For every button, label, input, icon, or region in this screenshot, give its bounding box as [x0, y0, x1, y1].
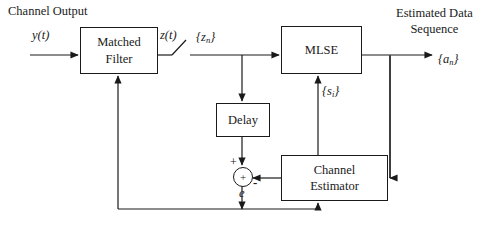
block-channel-estimator-line1: Channel [314, 162, 356, 179]
label-estimated-line1: Estimated Data [396, 6, 473, 22]
label-channel-estimate-si: {si} [322, 84, 339, 99]
block-mlse-line1: MLSE [305, 42, 338, 59]
label-sum-plus-input: + [230, 155, 237, 170]
label-error-signal: e [239, 186, 245, 201]
label-output-symbols-an: {an} [438, 52, 459, 67]
label-zn-subscript: n [206, 35, 210, 45]
block-mlse[interactable]: MLSE [281, 26, 362, 74]
summing-junction[interactable]: + [233, 167, 253, 187]
block-delay[interactable]: Delay [216, 103, 270, 137]
label-si-open: {s [322, 84, 332, 98]
label-filter-output-zt: z(t) [160, 28, 177, 43]
block-diagram-canvas: Matched Filter MLSE Delay Channel Estima… [0, 0, 492, 227]
label-an-open: {a [438, 52, 449, 66]
label-an-close: } [454, 52, 459, 66]
label-sampled-sequence-zn: {zn} [196, 30, 215, 45]
block-matched-filter-line1: Matched [97, 34, 141, 51]
summing-junction-operator: + [240, 172, 246, 183]
block-delay-line1: Delay [228, 112, 258, 129]
label-channel-output: Channel Output [8, 4, 88, 19]
label-input-signal-yt: y(t) [32, 28, 49, 43]
label-si-subscript: i [332, 89, 334, 99]
label-an-subscript: n [449, 57, 453, 67]
label-si-close: } [334, 84, 339, 98]
block-channel-estimator-line2: Estimator [310, 178, 359, 195]
block-channel-estimator[interactable]: Channel Estimator [281, 155, 388, 201]
label-zn-open: {z [196, 30, 206, 44]
label-sum-minus-input: - [253, 175, 257, 191]
label-zn-close: } [210, 30, 215, 44]
block-matched-filter[interactable]: Matched Filter [80, 27, 158, 74]
label-estimated-line2: Sequence [396, 22, 473, 38]
block-matched-filter-line2: Filter [105, 51, 132, 68]
label-estimated-data-sequence: Estimated Data Sequence [396, 6, 473, 37]
